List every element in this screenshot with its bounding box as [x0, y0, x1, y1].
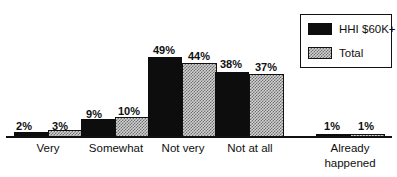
bar-value-label: 2%	[8, 120, 40, 132]
bar-series1-cat2	[182, 63, 217, 137]
bar-series1-cat1	[115, 117, 150, 137]
bar-chart: 2% 3% Very 9% 10% Somewhat 49% 44% Not v…	[0, 0, 397, 177]
bar-series0-cat3	[215, 72, 249, 137]
bar-value-label: 10%	[112, 105, 146, 117]
bar-series1-cat3	[249, 74, 284, 137]
bar-series0-cat1	[81, 119, 115, 137]
legend-swatch-dark-icon	[308, 23, 332, 35]
bar-value-label: 49%	[147, 44, 181, 56]
bar-value-label: 1%	[350, 120, 382, 132]
x-axis-baseline	[6, 136, 392, 138]
legend-swatch-gray-icon	[308, 47, 332, 59]
bar-value-label: 37%	[249, 61, 283, 73]
category-label-already-happened: Already happened	[310, 141, 390, 171]
legend-label: Total	[339, 46, 363, 60]
bar-value-label: 44%	[182, 50, 216, 62]
bar-value-label: 1%	[316, 120, 348, 132]
chart-legend: HHI $60K+ Total	[300, 14, 392, 68]
bar-value-label: 38%	[214, 58, 248, 70]
legend-label: HHI $60K+	[339, 22, 396, 36]
category-label-not-at-all: Not at all	[210, 141, 290, 156]
bar-series0-cat2	[148, 57, 182, 137]
